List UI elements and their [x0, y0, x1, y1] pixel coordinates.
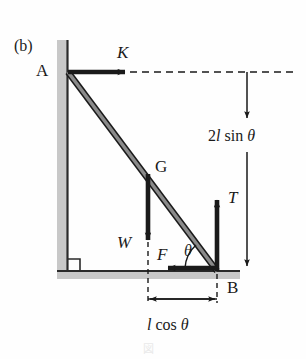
panel-label: (b)	[14, 38, 33, 54]
dim-h-theta: θ	[181, 316, 189, 333]
point-label-A: A	[36, 62, 48, 79]
force-label-F: F	[157, 246, 167, 263]
dimension-label-vertical: 2l sin θ	[208, 128, 255, 144]
dim-h-cos: cos	[151, 316, 180, 333]
dim-v-theta: θ	[247, 127, 255, 144]
force-label-K: K	[117, 44, 128, 61]
wall-shading	[57, 40, 68, 278]
right-angle-marker	[68, 259, 80, 271]
angle-label-theta: θ	[184, 243, 192, 259]
diagram-canvas	[0, 0, 306, 359]
force-label-W: W	[117, 234, 131, 251]
rod-body	[68, 72, 217, 271]
dim-v-number: 2	[208, 127, 216, 144]
figure-caption: 図	[143, 344, 154, 355]
point-label-B: B	[227, 279, 238, 296]
point-label-G: G	[155, 158, 167, 175]
dim-v-sin: sin	[220, 127, 247, 144]
physics-force-diagram: (b) A G B K W T F θ 2l sin θ l cos θ 図	[0, 0, 306, 359]
force-label-T: T	[228, 189, 237, 206]
dimension-label-horizontal: l cos θ	[147, 317, 189, 333]
